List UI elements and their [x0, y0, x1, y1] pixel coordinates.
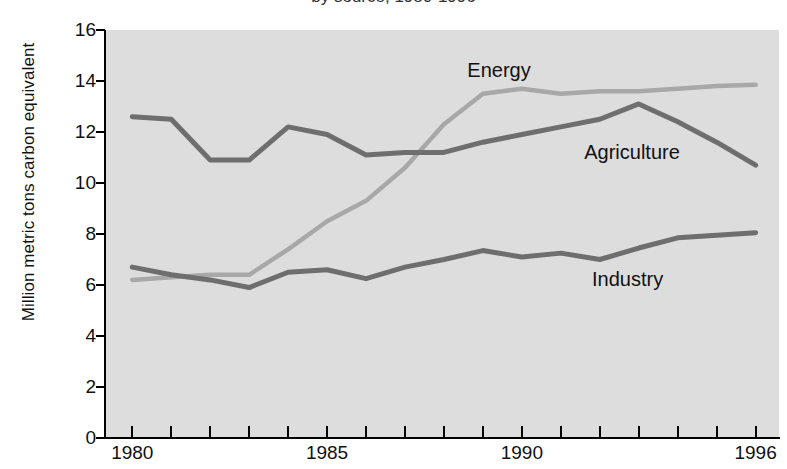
- y-tick-2: 2: [56, 376, 96, 398]
- x-tickmark-1982: [209, 426, 211, 437]
- x-axis-line: [104, 437, 780, 439]
- x-tickmark-1983: [248, 426, 250, 437]
- y-tickmark-8: [96, 233, 105, 235]
- x-tickmark-1987: [404, 426, 406, 437]
- plot-area: [105, 30, 779, 438]
- y-tick-14: 14: [56, 70, 96, 92]
- y-tick-4: 4: [56, 325, 96, 347]
- x-tick-label-1985: 1985: [306, 442, 348, 464]
- y-tick-16: 16: [56, 19, 96, 41]
- y-tickmark-6: [96, 284, 105, 286]
- emissions-line-chart: by source, 1980-1996 Million metric tons…: [0, 0, 787, 469]
- x-tickmark-1989: [482, 426, 484, 437]
- y-tick-0: 0: [56, 427, 96, 449]
- x-tickmark-1980: [131, 426, 133, 437]
- y-axis-tick-labels: 1614121086420: [48, 0, 96, 469]
- x-tickmark-1996: [755, 426, 757, 437]
- x-tickmark-1992: [599, 426, 601, 437]
- cropped-title-fragment: by source, 1980-1996: [0, 0, 787, 12]
- y-tickmark-14: [96, 80, 105, 82]
- series-label-energy: Energy: [467, 59, 530, 82]
- x-tickmark-1988: [443, 426, 445, 437]
- y-tickmark-2: [96, 386, 105, 388]
- x-tickmark-1991: [560, 426, 562, 437]
- y-tick-12: 12: [56, 121, 96, 143]
- y-tick-10: 10: [56, 172, 96, 194]
- y-tick-6: 6: [56, 274, 96, 296]
- x-tickmark-1986: [365, 426, 367, 437]
- y-tickmark-16: [96, 29, 105, 31]
- x-tickmark-1994: [677, 426, 679, 437]
- series-label-industry: Industry: [592, 268, 663, 291]
- x-tickmark-1995: [716, 426, 718, 437]
- x-tickmark-1985: [326, 426, 328, 437]
- x-tickmark-1981: [170, 426, 172, 437]
- x-tick-label-1990: 1990: [501, 442, 543, 464]
- series-label-agriculture: Agriculture: [584, 141, 680, 164]
- series-canvas: [105, 30, 779, 438]
- y-axis-title: Million metric tons carbon equivalent: [19, 0, 39, 397]
- x-tickmark-1984: [287, 426, 289, 437]
- y-tickmark-4: [96, 335, 105, 337]
- x-tick-label-1980: 1980: [111, 442, 153, 464]
- y-tickmark-0: [96, 437, 105, 439]
- x-tick-label-1996: 1996: [734, 442, 776, 464]
- y-tickmark-10: [96, 182, 105, 184]
- x-tickmark-1990: [521, 426, 523, 437]
- x-tickmark-1993: [638, 426, 640, 437]
- y-tick-8: 8: [56, 223, 96, 245]
- y-tickmark-12: [96, 131, 105, 133]
